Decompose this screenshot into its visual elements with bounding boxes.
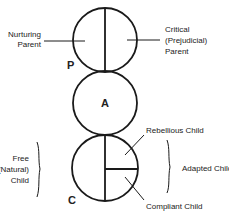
free-child-line1: Free [13, 154, 30, 163]
ego-state-diagram: P A C Nurturing Parent Critical (Prejudi… [0, 0, 229, 213]
compliant-pointer-line [125, 177, 144, 200]
critical-label-line3: Parent [165, 47, 189, 56]
adapted-child-brace [167, 140, 170, 193]
adult-letter: A [101, 97, 109, 109]
free-child-line2: (Natural) [0, 165, 29, 174]
adapted-child-label: Adapted Child [182, 164, 229, 173]
parent-letter: P [67, 59, 74, 71]
rebellious-child-label: Rebellious Child [146, 126, 204, 135]
nurturing-label-line2: Parent [17, 40, 41, 49]
free-child-brace [37, 142, 40, 197]
free-child-line3: Child [11, 176, 29, 185]
critical-label-line2: (Prejudicial) [165, 36, 208, 45]
compliant-child-label: Compliant Child [146, 202, 202, 211]
child-circle [72, 135, 138, 201]
critical-label-line1: Critical [165, 25, 190, 34]
child-letter: C [68, 194, 76, 206]
nurturing-label-line1: Nurturing [8, 30, 41, 39]
